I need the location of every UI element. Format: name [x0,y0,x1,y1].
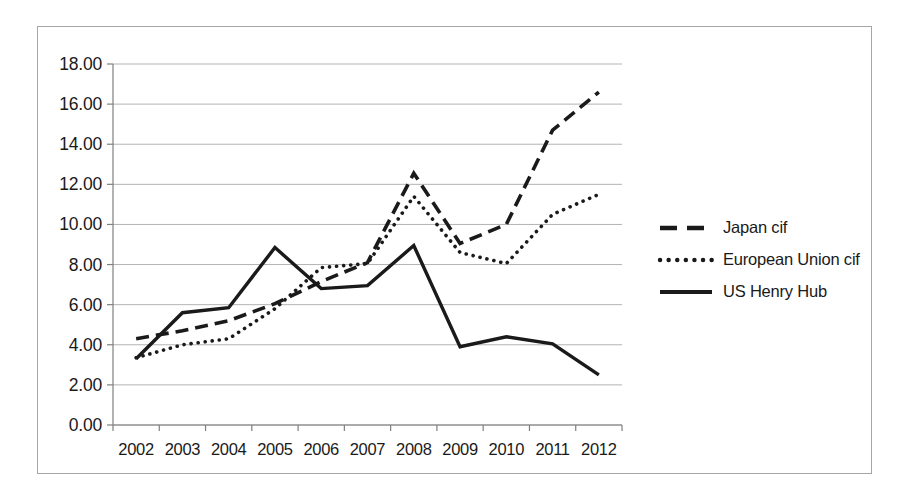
y-tick-label: 18.00 [40,54,102,75]
legend-line-samples [660,228,712,292]
legend-label[interactable]: European Union cif [723,250,860,269]
x-tick-label: 2009 [434,440,486,459]
series-line-european-union-cif [136,194,599,357]
x-tick-label: 2010 [480,440,532,459]
y-tick-label: 12.00 [40,174,102,195]
y-tick-label: 0.00 [40,415,102,436]
x-tick-label: 2004 [203,440,255,459]
axis-lines [113,64,622,425]
y-axis-ticks [107,64,113,425]
y-tick-label: 6.00 [40,295,102,316]
x-tick-label: 2011 [527,440,579,459]
x-tick-label: 2007 [342,440,394,459]
y-tick-label: 16.00 [40,94,102,115]
x-tick-label: 2012 [573,440,625,459]
gridlines [113,64,622,425]
y-tick-label: 4.00 [40,335,102,356]
x-tick-label: 2006 [295,440,347,459]
y-tick-label: 10.00 [40,214,102,235]
data-series [136,92,599,375]
legend-label[interactable]: US Henry Hub [723,282,827,301]
x-tick-label: 2002 [110,440,162,459]
y-tick-label: 14.00 [40,134,102,155]
y-tick-label: 2.00 [40,375,102,396]
x-tick-label: 2008 [388,440,440,459]
legend-label[interactable]: Japan cif [723,218,787,237]
x-axis-ticks [113,425,622,431]
x-tick-label: 2005 [249,440,301,459]
y-tick-label: 8.00 [40,255,102,276]
x-tick-label: 2003 [156,440,208,459]
series-line-japan-cif [136,92,599,339]
